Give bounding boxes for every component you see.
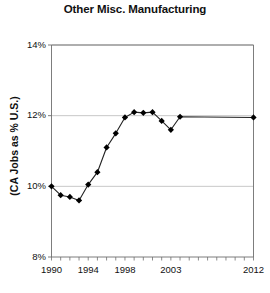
chart-container: Other Misc. Manufacturing (CA Jobs as % … xyxy=(0,0,270,293)
data-point-marker xyxy=(122,114,128,120)
plot-frame xyxy=(52,45,254,257)
data-point-marker xyxy=(113,130,119,136)
data-point-marker xyxy=(103,144,109,150)
gridlines xyxy=(52,45,254,186)
data-point-marker xyxy=(140,110,146,116)
data-point-marker xyxy=(67,194,73,200)
data-point-marker xyxy=(76,197,82,203)
data-point-marker xyxy=(250,114,256,120)
plot-area xyxy=(0,0,270,293)
data-series-markers xyxy=(48,109,256,204)
x-axis-ticks xyxy=(52,257,254,261)
data-series-line xyxy=(52,112,254,200)
y-axis-ticks xyxy=(48,45,52,257)
data-point-marker xyxy=(131,109,137,115)
